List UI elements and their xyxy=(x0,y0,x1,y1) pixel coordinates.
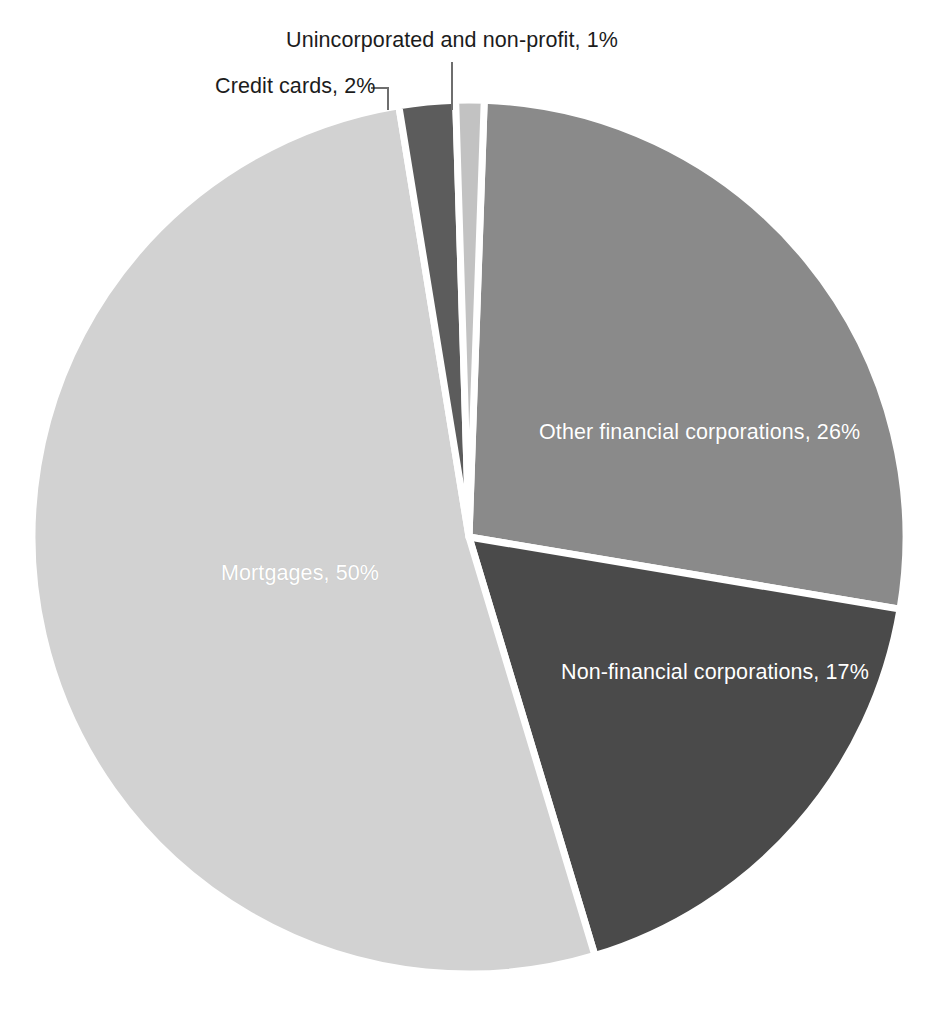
slice-label-credit-cards: Credit cards, 2% xyxy=(215,76,376,98)
slice-label-other-financial-corporations: Other financial corporations, 26% xyxy=(539,422,860,444)
pie-chart: Unincorporated and non-profit, 1% Credit… xyxy=(0,0,936,1020)
pie-slices xyxy=(32,100,906,974)
slice-label-non-financial-corporations: Non-financial corporations, 17% xyxy=(561,662,869,684)
slice-label-mortgages: Mortgages, 50% xyxy=(221,563,379,585)
slice-label-unincorporated-and-non-profit: Unincorporated and non-profit, 1% xyxy=(286,30,618,52)
pie-slice-other-financial-corporations[interactable] xyxy=(469,100,906,609)
pie-chart-canvas xyxy=(0,0,936,1020)
